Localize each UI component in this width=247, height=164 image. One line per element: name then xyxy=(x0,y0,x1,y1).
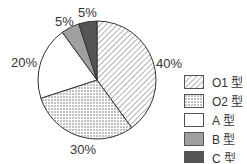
swatch-dark-icon xyxy=(184,151,204,164)
legend: O1 型 O2 型 A 型 B 型 C 型 xyxy=(184,72,243,163)
label-a: 20% xyxy=(11,55,37,70)
legend-item-o2: O2 型 xyxy=(184,91,243,110)
label-o1: 40% xyxy=(156,56,182,71)
swatch-gray-icon xyxy=(184,132,204,146)
label-c: 5% xyxy=(78,5,97,20)
swatch-hatch-icon xyxy=(184,75,204,89)
swatch-white-icon xyxy=(184,113,204,127)
label-o2: 30% xyxy=(70,142,96,157)
legend-item-c: C 型 xyxy=(184,148,243,163)
swatch-dots-icon xyxy=(184,94,204,108)
legend-item-b: B 型 xyxy=(184,129,243,148)
legend-item-a: A 型 xyxy=(184,110,243,129)
legend-item-o1: O1 型 xyxy=(184,72,243,91)
pie-slices xyxy=(38,21,156,139)
label-b: 5% xyxy=(55,14,74,29)
